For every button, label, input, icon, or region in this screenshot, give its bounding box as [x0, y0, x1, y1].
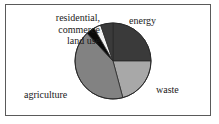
slice-label-waste: waste: [156, 84, 179, 96]
pie-chart-figure: residential, commerce land use energy wa…: [0, 0, 219, 124]
slice-label-residential-line3: land use: [28, 35, 100, 47]
slice-label-energy: energy: [129, 15, 156, 27]
pie-slice-energy: [113, 23, 151, 61]
slice-label-residential-line2: commerce: [28, 24, 100, 36]
slice-label-residential: residential, commerce land use: [28, 12, 100, 47]
slice-label-agriculture: agriculture: [24, 89, 67, 101]
slice-label-residential-line1: residential,: [28, 12, 100, 24]
